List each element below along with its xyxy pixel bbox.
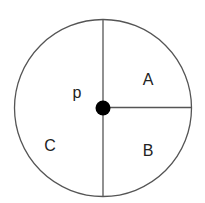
spinner-diagram: p A B C: [0, 0, 205, 203]
label-B: B: [143, 142, 154, 159]
center-dot: [96, 101, 111, 116]
label-C: C: [44, 137, 56, 154]
label-A: A: [143, 71, 154, 88]
label-p: p: [73, 84, 82, 101]
